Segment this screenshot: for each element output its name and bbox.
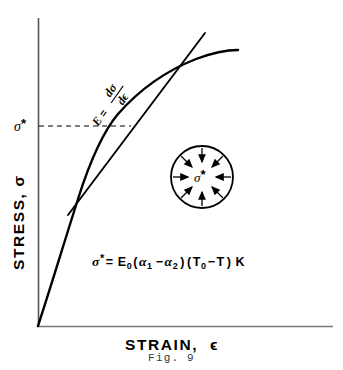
figure-container: σ* STRESS, σ STRAIN, ϵ E= dσ dϵ σ*=E0(α1… — [0, 0, 343, 370]
figure-caption: Fig. 9 — [0, 352, 343, 364]
eq-close-paren-1: ) — [180, 255, 185, 269]
eq-minus-1: − — [156, 255, 164, 269]
eq-close-paren-2: ) — [227, 255, 232, 269]
eq-temp0-glyph: T — [193, 255, 201, 269]
stress-arrow-ne — [212, 156, 223, 167]
eq-alpha2-sub-glyph: 2 — [173, 261, 179, 271]
x-axis-title: STRAIN, ϵ — [125, 336, 219, 353]
eq-alpha1-sub-glyph: 1 — [147, 261, 153, 271]
stress-strain-chart: σ* STRESS, σ STRAIN, ϵ E= dσ dϵ σ*=E0(α1… — [0, 0, 343, 370]
y-tick-sigma-star: σ* — [14, 116, 27, 134]
stress-arrow-nw — [181, 156, 192, 167]
specimen-star-glyph: * — [200, 167, 206, 182]
eq-alpha2-glyph: α — [165, 254, 173, 269]
slope-symbol-E: E= — [88, 107, 110, 130]
eq-minus-2: − — [208, 255, 216, 269]
eq-modulus-glyph: E — [118, 255, 127, 269]
stress-arrow-se — [212, 187, 223, 198]
eq-temp0-sub-glyph: 0 — [201, 261, 207, 271]
eq-alpha1-glyph: α — [139, 254, 147, 269]
eq-equals-glyph: = — [106, 255, 114, 269]
y-tick-star-glyph: * — [21, 116, 27, 131]
sigma-star-equation: σ*=E0(α1−α2)(T0−T)K — [92, 252, 245, 271]
tangent-line — [68, 33, 205, 215]
eq-modulus-sub-glyph: 0 — [127, 261, 133, 271]
y-axis-title: STRESS, σ — [10, 174, 27, 270]
stress-arrow-sw — [181, 187, 192, 198]
specimen-sigma-star-label: σ* — [194, 167, 206, 185]
stress-strain-curve — [38, 50, 238, 326]
specimen-stress-diagram: σ* — [171, 146, 233, 208]
eq-open-paren-2: ( — [187, 255, 192, 269]
eq-star-glyph: * — [100, 252, 105, 264]
eq-temp-glyph: T — [217, 255, 225, 269]
eq-sigma-glyph: σ — [92, 254, 100, 269]
eq-constant-glyph: K — [236, 255, 246, 269]
eq-open-paren-1: ( — [133, 255, 138, 269]
